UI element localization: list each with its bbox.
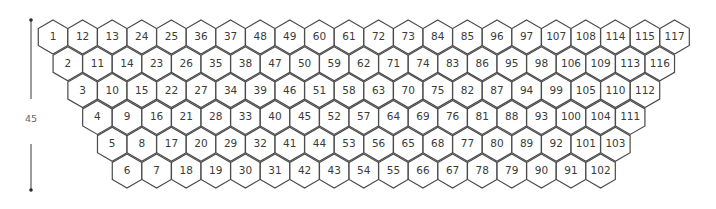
hex-number: 12: [76, 30, 89, 42]
hex-number: 115: [635, 30, 655, 42]
hex-number: 75: [431, 84, 444, 96]
hex-number: 56: [372, 137, 386, 149]
hex-number: 37: [224, 30, 237, 42]
height-ruler: 45: [25, 18, 37, 192]
hex-number: 21: [180, 110, 193, 122]
hex-number: 94: [520, 84, 534, 96]
hex-number: 5: [109, 137, 116, 149]
hex-number: 96: [490, 30, 504, 42]
hex-number: 49: [283, 30, 296, 42]
hex-grid-diagram: 45 1121324253637484960617273848596971071…: [0, 0, 716, 209]
hex-number: 88: [505, 110, 518, 122]
hex-number: 71: [387, 57, 400, 69]
hex-number: 102: [591, 164, 611, 176]
hex-number: 34: [224, 84, 238, 96]
hex-number: 50: [298, 57, 311, 69]
hex-number: 84: [431, 30, 445, 42]
hex-number: 52: [328, 110, 341, 122]
hex-number: 90: [535, 164, 548, 176]
hex-number: 60: [313, 30, 326, 42]
hex-number: 27: [194, 84, 207, 96]
hex-number: 63: [372, 84, 385, 96]
hex-number: 19: [209, 164, 222, 176]
hex-number: 110: [605, 84, 625, 96]
hex-number: 91: [564, 164, 577, 176]
hex-number: 7: [153, 164, 160, 176]
hex-number: 17: [165, 137, 178, 149]
hex-number: 85: [461, 30, 474, 42]
ruler-dot-top: [29, 18, 33, 22]
hex-number: 97: [520, 30, 533, 42]
hex-number: 41: [283, 137, 296, 149]
hex-number: 43: [328, 164, 341, 176]
hex-number: 20: [194, 137, 207, 149]
hex-number: 30: [239, 164, 252, 176]
hex-number: 69: [416, 110, 429, 122]
hex-number: 55: [387, 164, 400, 176]
hex-number: 87: [490, 84, 503, 96]
hex-number: 42: [298, 164, 311, 176]
hex-number: 23: [150, 57, 163, 69]
hex-number: 81: [476, 110, 489, 122]
hex-number: 44: [313, 137, 327, 149]
hex-number: 61: [342, 30, 355, 42]
hex-number: 83: [446, 57, 459, 69]
hex-number: 48: [254, 30, 267, 42]
hex-number: 67: [446, 164, 459, 176]
hex-number: 86: [476, 57, 490, 69]
hex-number: 1: [50, 30, 57, 42]
hex-number: 117: [665, 30, 685, 42]
hex-number: 24: [135, 30, 149, 42]
hex-number: 6: [124, 164, 131, 176]
hex-number: 95: [505, 57, 518, 69]
hex-number: 54: [357, 164, 371, 176]
ruler-dot-bottom: [29, 188, 33, 192]
hex-number: 26: [180, 57, 194, 69]
hex-number: 104: [591, 110, 611, 122]
hex-number: 68: [431, 137, 444, 149]
hex-number: 2: [64, 57, 71, 69]
hex-number: 18: [180, 164, 193, 176]
hex-number: 39: [254, 84, 267, 96]
hex-number: 4: [94, 110, 101, 122]
hex-number: 3: [79, 84, 86, 96]
hex-number: 114: [605, 30, 625, 42]
hex-number: 101: [576, 137, 596, 149]
hex-number: 93: [535, 110, 548, 122]
hex-number: 38: [239, 57, 252, 69]
hex-number: 22: [165, 84, 178, 96]
hex-number: 116: [650, 57, 670, 69]
hex-number: 16: [150, 110, 164, 122]
hex-number: 108: [576, 30, 596, 42]
hex-number: 99: [550, 84, 563, 96]
hex-number: 73: [402, 30, 415, 42]
hex-number: 100: [561, 110, 581, 122]
hex-number: 14: [120, 57, 134, 69]
hex-number: 111: [620, 110, 640, 122]
hex-number: 53: [342, 137, 355, 149]
hex-number: 32: [254, 137, 267, 149]
hex-number: 62: [357, 57, 370, 69]
hex-number: 45: [298, 110, 311, 122]
hex-number: 13: [106, 30, 119, 42]
hex-number: 105: [576, 84, 596, 96]
hex-number: 57: [357, 110, 370, 122]
hex-number: 82: [461, 84, 474, 96]
hex-number: 25: [165, 30, 178, 42]
hex-number: 47: [268, 57, 281, 69]
hex-number: 103: [605, 137, 625, 149]
hex-number: 80: [490, 137, 503, 149]
hex-number: 58: [342, 84, 355, 96]
hex-number: 76: [446, 110, 460, 122]
hex-number: 8: [138, 137, 145, 149]
hex-number: 113: [620, 57, 640, 69]
hex-number: 29: [224, 137, 237, 149]
hex-cells: 1121324253637484960617273848596971071081…: [38, 20, 689, 188]
hex-number: 36: [194, 30, 208, 42]
hex-number: 70: [402, 84, 415, 96]
hex-number: 98: [535, 57, 548, 69]
hex-number: 78: [476, 164, 489, 176]
hex-number: 35: [209, 57, 222, 69]
hex-number: 74: [416, 57, 430, 69]
hex-number: 59: [328, 57, 341, 69]
